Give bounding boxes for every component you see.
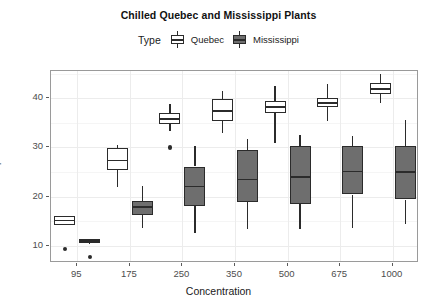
whisker-upper — [352, 136, 353, 146]
x-tick-label: 95 — [56, 268, 96, 279]
x-tick-label: 500 — [267, 268, 307, 279]
legend: Type Quebec Mississippi — [0, 31, 437, 48]
boxplot-mississippi-250 — [184, 71, 205, 262]
whisker-lower — [194, 206, 195, 233]
boxplot-mississippi-500 — [290, 71, 311, 262]
y-tick-mark — [46, 245, 49, 246]
boxplot-mississippi-1000 — [395, 71, 416, 262]
median-line — [342, 171, 363, 173]
boxplot-chart: Chilled Quebec and Mississippi Plants Ty… — [0, 0, 437, 307]
x-tick-mark — [339, 263, 340, 266]
whisker-upper — [299, 135, 300, 146]
median-line — [290, 176, 311, 178]
legend-label-mississippi: Mississippi — [253, 34, 299, 45]
boxplot-quebec-675 — [317, 71, 338, 262]
legend-title: Type — [138, 34, 161, 46]
box-iqr — [237, 150, 258, 202]
boxplot-quebec-175 — [107, 71, 128, 262]
gridline-x — [130, 71, 131, 261]
legend-key-mississippi-icon — [231, 31, 248, 48]
x-tick-label: 250 — [161, 268, 201, 279]
legend-label-quebec: Quebec — [191, 34, 224, 45]
whisker-upper — [327, 84, 328, 98]
boxplot-quebec-500 — [265, 71, 286, 262]
whisker-lower — [222, 121, 223, 134]
median-line — [159, 118, 180, 120]
whisker-lower — [274, 113, 275, 143]
y-tick-label: 10 — [19, 239, 43, 250]
y-tick-mark — [46, 196, 49, 197]
gridline-x — [235, 71, 236, 261]
y-tick-label: 30 — [19, 140, 43, 151]
median-line — [54, 220, 75, 222]
boxplot-mississippi-675 — [342, 71, 363, 262]
whisker-upper — [222, 91, 223, 98]
whisker-upper — [380, 74, 381, 83]
plot-panel — [50, 70, 418, 262]
boxplot-mississippi-350 — [237, 71, 258, 262]
x-tick-mark — [392, 263, 393, 266]
x-axis-title: Concentration — [0, 285, 437, 297]
whisker-upper — [142, 186, 143, 201]
boxplot-quebec-350 — [212, 71, 233, 262]
median-line — [370, 88, 391, 90]
boxplot-mississippi-95 — [79, 71, 100, 262]
x-tick-mark — [129, 263, 130, 266]
x-tick-mark — [181, 263, 182, 266]
gridline-x — [288, 71, 289, 261]
median-line — [184, 186, 205, 188]
whisker-upper — [247, 139, 248, 150]
whisker-upper — [405, 120, 406, 146]
x-tick-label: 350 — [214, 268, 254, 279]
y-tick-label: 20 — [19, 190, 43, 201]
whisker-upper — [169, 104, 170, 113]
median-line — [317, 102, 338, 104]
whisker-lower — [380, 94, 381, 104]
gridline-x — [77, 71, 78, 261]
y-axis-title: Uptake — [0, 139, 1, 172]
boxplot-quebec-1000 — [370, 71, 391, 262]
chart-title: Chilled Quebec and Mississippi Plants — [0, 9, 437, 21]
whisker-upper — [194, 146, 195, 167]
gridline-x — [182, 71, 183, 261]
boxplot-mississippi-175 — [132, 71, 153, 262]
gridline-x — [340, 71, 341, 261]
whisker-lower — [247, 202, 248, 229]
median-line — [395, 171, 416, 173]
median-line — [212, 110, 233, 112]
y-tick-label: 40 — [19, 91, 43, 102]
whisker-lower — [169, 124, 170, 131]
x-tick-mark — [234, 263, 235, 266]
whisker-lower — [327, 107, 328, 121]
y-tick-mark — [46, 97, 49, 98]
x-tick-label: 675 — [319, 268, 359, 279]
x-tick-mark — [287, 263, 288, 266]
median-line — [265, 106, 286, 108]
boxplot-quebec-95 — [54, 71, 75, 262]
legend-item-mississippi[interactable]: Mississippi — [231, 31, 299, 48]
whisker-upper — [274, 86, 275, 101]
median-line — [79, 240, 100, 242]
median-line — [237, 179, 258, 181]
outlier-point — [168, 145, 173, 150]
median-line — [107, 160, 128, 162]
legend-item-quebec[interactable]: Quebec — [169, 31, 224, 48]
x-tick-label: 175 — [109, 268, 149, 279]
y-tick-mark — [46, 146, 49, 147]
whisker-lower — [142, 215, 143, 228]
gridline-x — [393, 71, 394, 261]
boxplot-quebec-250 — [159, 71, 180, 262]
x-tick-mark — [76, 263, 77, 266]
whisker-lower — [405, 200, 406, 225]
whisker-lower — [89, 243, 90, 244]
median-line — [132, 206, 153, 208]
whisker-lower — [299, 204, 300, 229]
x-tick-label: 1000 — [372, 268, 412, 279]
whisker-lower — [117, 170, 118, 187]
whisker-lower — [352, 195, 353, 228]
legend-key-quebec-icon — [169, 31, 186, 48]
box-iqr — [132, 201, 153, 215]
